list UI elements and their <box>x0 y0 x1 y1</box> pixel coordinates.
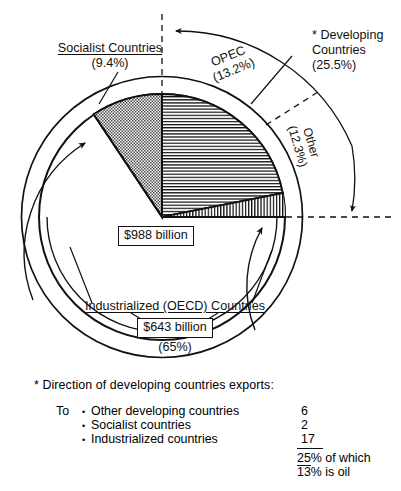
footnote-row-value: 17 <box>297 432 341 446</box>
footnote-row: • Industrialized countries 17 <box>56 432 394 446</box>
footnote-rows: To • Other developing countries 6 • Soci… <box>56 404 394 479</box>
footnote-total-row: 25% of which 13% is oil <box>297 448 394 479</box>
developing-arrow-arc <box>247 228 262 330</box>
sum-rule <box>297 448 323 449</box>
footnote-row: To • Other developing countries 6 <box>56 404 394 418</box>
footnote-row: • Socialist countries 2 <box>56 418 394 432</box>
bullet-icon: • <box>82 421 91 431</box>
footnote-row-value: 2 <box>297 418 341 432</box>
bullet-icon: • <box>82 435 91 445</box>
oecd-leader-left <box>70 247 92 303</box>
oecd-label-text: Industrialized (OECD) Countries <box>85 299 265 313</box>
developing-label-line2: Countries <box>312 43 366 57</box>
developing-label: * Developing <box>312 28 383 42</box>
socialist-label: Socialist Countries <box>58 41 162 55</box>
developing-leader-line <box>251 56 292 104</box>
oecd-label: Industrialized (OECD) Countries <box>75 299 275 314</box>
oecd-value-wrap: $643 billion <box>75 318 275 338</box>
footnote-row-label: Industrialized countries <box>91 432 297 446</box>
socialist-label-group: Socialist Countries (9.4%) <box>30 41 190 71</box>
center-value-wrap: $988 billion <box>118 226 194 246</box>
oecd-percent: (65%) <box>75 340 275 355</box>
footnote-block: * Direction of developing countries expo… <box>34 378 394 479</box>
to-label: To <box>56 404 82 418</box>
socialist-percent: (9.4%) <box>91 56 128 70</box>
footnote-row-label: Socialist countries <box>91 418 297 432</box>
figure-root: Socialist Countries (9.4%) * Developing … <box>0 0 401 491</box>
footnote-row-value: 6 <box>297 404 341 418</box>
footnote-row-label: Other developing countries <box>91 404 297 418</box>
developing-bracket-arc-bottom <box>352 146 355 211</box>
bullet-icon: • <box>82 407 91 417</box>
developing-percent: (25.5%) <box>312 58 356 72</box>
wedge-socialist <box>94 94 162 217</box>
footnote-total-value: 25 <box>297 451 311 466</box>
socialist-leader-line <box>99 72 118 104</box>
developing-label-group: * Developing Countries (25.5%) <box>312 28 383 73</box>
center-value-box: $988 billion <box>118 226 194 246</box>
footnote-heading: * Direction of developing countries expo… <box>34 378 394 392</box>
oecd-value-box: $643 billion <box>137 318 213 338</box>
